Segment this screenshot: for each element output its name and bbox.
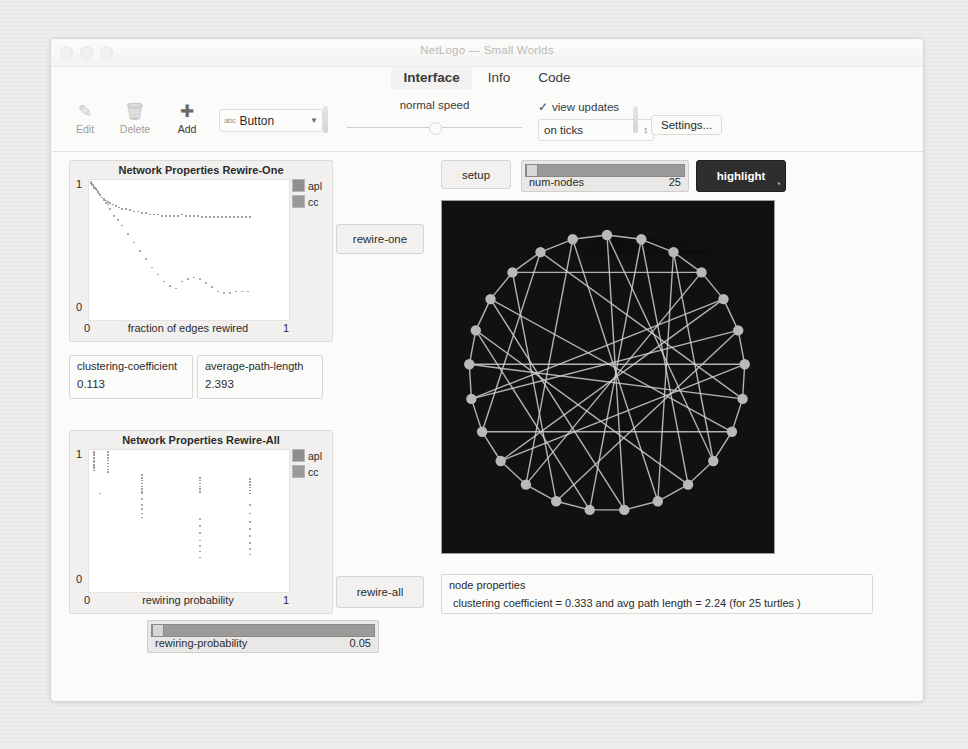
speed-slider[interactable] bbox=[347, 122, 522, 134]
legend-swatch-apl bbox=[292, 179, 305, 192]
edit-tool-label: Edit bbox=[76, 123, 94, 135]
setup-button[interactable]: setup bbox=[441, 160, 511, 189]
plot-data-point bbox=[199, 491, 201, 493]
title-bar: NetLogo — Small Worlds bbox=[51, 39, 923, 67]
plot-data-point bbox=[249, 487, 251, 489]
plot-data-point bbox=[249, 528, 251, 530]
output-node-properties[interactable]: node properties clustering coefficient =… bbox=[441, 574, 873, 614]
edit-tool[interactable]: ✎ Edit bbox=[61, 101, 109, 135]
plot-data-point bbox=[145, 212, 147, 214]
spinner-icon[interactable]: ↕ bbox=[644, 126, 649, 135]
netlogo-window: NetLogo — Small Worlds Interface Info Co… bbox=[50, 38, 924, 702]
network-node[interactable] bbox=[471, 325, 481, 335]
network-node[interactable] bbox=[521, 479, 531, 489]
slider-rewiring-probability[interactable]: rewiring-probability 0.05 bbox=[147, 620, 379, 653]
plot-data-point bbox=[241, 291, 243, 293]
plot-data-point bbox=[93, 466, 95, 468]
slider-num-nodes[interactable]: num-nodes 25 bbox=[521, 160, 689, 192]
network-node[interactable] bbox=[619, 505, 629, 515]
plot-data-point bbox=[93, 454, 95, 456]
plot-data-point bbox=[151, 267, 153, 269]
plot-data-point bbox=[249, 542, 251, 544]
plot-data-point bbox=[213, 216, 215, 218]
plot-data-point bbox=[187, 278, 189, 280]
plot-data-point bbox=[181, 214, 183, 216]
network-node[interactable] bbox=[496, 456, 506, 466]
network-node[interactable] bbox=[683, 479, 693, 489]
network-node[interactable] bbox=[696, 267, 706, 277]
toolbar-separator-1 bbox=[323, 106, 328, 133]
plot-rewire-all-xtitle: rewiring probability bbox=[98, 594, 278, 606]
plot-data-point bbox=[137, 211, 139, 213]
monitor-average-path-length[interactable]: average-path-length 2.393 bbox=[197, 355, 323, 399]
plot-data-point bbox=[107, 471, 109, 473]
rewire-one-button[interactable]: rewire-one bbox=[336, 224, 424, 254]
plot-rewire-one-ymin: 0 bbox=[76, 301, 82, 313]
world-view[interactable] bbox=[441, 200, 775, 554]
network-node[interactable] bbox=[585, 505, 595, 515]
tab-code[interactable]: Code bbox=[526, 67, 582, 89]
monitor-average-path-length-label: average-path-length bbox=[205, 360, 303, 372]
plot-data-point bbox=[201, 216, 203, 218]
network-node[interactable] bbox=[737, 394, 747, 404]
widget-type-value: Button bbox=[239, 114, 310, 128]
network-node[interactable] bbox=[535, 247, 545, 257]
legend-label-cc: cc bbox=[308, 196, 319, 208]
settings-button[interactable]: Settings... bbox=[651, 115, 722, 135]
plot-data-point bbox=[141, 474, 143, 476]
delete-tool[interactable]: 🗑 Delete bbox=[111, 101, 159, 135]
view-updates-checkbox[interactable]: ✓view updates bbox=[538, 100, 619, 114]
tab-interface[interactable]: Interface bbox=[391, 67, 471, 89]
widget-type-dropdown[interactable]: abc Button ▼ bbox=[219, 109, 323, 132]
plot-data-point bbox=[199, 545, 201, 547]
plot-data-point bbox=[127, 233, 129, 235]
rewire-all-button[interactable]: rewire-all bbox=[336, 576, 424, 608]
speed-control[interactable]: normal speed bbox=[347, 99, 522, 134]
network-node[interactable] bbox=[733, 325, 743, 335]
network-node[interactable] bbox=[477, 427, 487, 437]
plot-data-point bbox=[209, 216, 211, 218]
plot-rewire-one[interactable]: Network Properties Rewire-One 1 0 apl cc… bbox=[69, 160, 333, 342]
plot-data-point bbox=[199, 488, 201, 490]
network-node[interactable] bbox=[602, 230, 612, 240]
network-node[interactable] bbox=[653, 496, 663, 506]
network-node[interactable] bbox=[668, 247, 678, 257]
plot-data-point bbox=[199, 551, 201, 553]
network-node[interactable] bbox=[727, 427, 737, 437]
tab-bar: Interface Info Code bbox=[51, 67, 923, 93]
highlight-button-label: highlight bbox=[717, 170, 766, 182]
network-node[interactable] bbox=[466, 394, 476, 404]
network-node[interactable] bbox=[636, 234, 646, 244]
plot-data-point bbox=[177, 215, 179, 217]
slider-rewiring-probability-track[interactable] bbox=[151, 624, 375, 637]
plot-data-point bbox=[149, 214, 151, 216]
tab-info[interactable]: Info bbox=[476, 67, 523, 89]
legend-entry-apl: apl bbox=[292, 179, 322, 192]
monitor-clustering-coefficient[interactable]: clustering-coefficient 0.113 bbox=[69, 355, 193, 399]
plot-data-point bbox=[107, 457, 109, 459]
network-node[interactable] bbox=[507, 267, 517, 277]
network-node[interactable] bbox=[740, 359, 750, 369]
add-tool[interactable]: ✚ Add bbox=[163, 101, 211, 135]
plot-rewire-one-xtitle: fraction of edges rewired bbox=[98, 322, 278, 334]
plot-data-point bbox=[141, 486, 143, 488]
plot-data-point bbox=[237, 216, 239, 218]
plot-data-point bbox=[199, 540, 201, 542]
network-link bbox=[674, 252, 714, 461]
network-node[interactable] bbox=[551, 496, 561, 506]
plot-data-point bbox=[249, 493, 251, 495]
view-updates-label: view updates bbox=[552, 101, 619, 113]
plot-data-point bbox=[223, 292, 225, 294]
legend-entry-cc: cc bbox=[292, 195, 322, 208]
slider-rewiring-probability-thumb[interactable] bbox=[152, 624, 164, 637]
network-node[interactable] bbox=[718, 294, 728, 304]
plot-rewire-all[interactable]: Network Properties Rewire-All 1 0 apl cc… bbox=[69, 430, 333, 614]
network-node[interactable] bbox=[464, 359, 474, 369]
highlight-button[interactable]: highlight ◔ bbox=[696, 160, 786, 192]
plot-data-point bbox=[141, 504, 143, 506]
plot-rewire-one-xmax: 1 bbox=[283, 322, 289, 334]
network-node[interactable] bbox=[485, 294, 495, 304]
network-node[interactable] bbox=[568, 234, 578, 244]
network-node[interactable] bbox=[708, 456, 718, 466]
speed-slider-thumb[interactable] bbox=[429, 122, 442, 135]
